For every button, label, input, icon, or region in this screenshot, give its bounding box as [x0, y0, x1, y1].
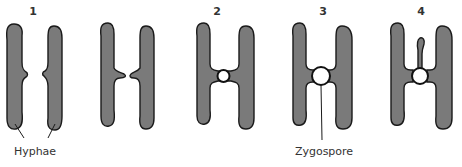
stage-label-2: 2 — [213, 5, 221, 18]
hypha-right — [328, 26, 352, 129]
hypha-left — [7, 24, 28, 129]
zygospore-label: Zygospore — [295, 145, 353, 158]
stage-label-3: 3 — [319, 5, 327, 18]
zygospore — [312, 67, 330, 85]
hypha-right — [227, 26, 254, 129]
hypha-left — [293, 23, 314, 125]
hyphae-label: Hyphae — [14, 145, 56, 158]
stage-3: Zygospore — [293, 23, 354, 158]
stage-1b — [101, 23, 154, 129]
hypha-left — [391, 23, 413, 125]
stage-label-1: 1 — [29, 5, 37, 18]
zygospore-leader — [321, 85, 322, 140]
hypha-right — [130, 26, 154, 129]
stage-2 — [197, 23, 254, 129]
stage-label-4: 4 — [417, 5, 425, 18]
sporangium-stalk — [417, 38, 424, 69]
hypha-left — [101, 23, 126, 126]
zygospore — [218, 70, 230, 82]
zygospore-formation-diagram: 1 2 3 4 Hyphae Zygospore — [0, 0, 462, 167]
hypha-right — [43, 26, 62, 130]
zygospore — [412, 68, 428, 84]
stage-4 — [391, 23, 452, 129]
stage-1: Hyphae — [7, 24, 62, 158]
hypha-right — [427, 26, 452, 129]
hypha-left — [197, 23, 220, 124]
